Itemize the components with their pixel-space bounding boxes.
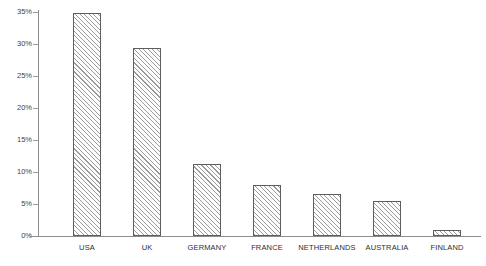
y-tick-label-10: 10% (0, 168, 32, 176)
bar-usa (73, 13, 101, 236)
bar-netherlands (313, 194, 341, 236)
bar-uk (133, 48, 161, 236)
y-tick-label-35: 35% (0, 8, 32, 16)
bar-chart: 35% 30% 25% 20% 15% 10% 5% 0% USAUKGERMA… (0, 0, 486, 266)
y-axis-line (38, 10, 39, 237)
y-tick-label-15: 15% (0, 136, 32, 144)
bar-finland (433, 230, 461, 236)
bar-germany (193, 164, 221, 236)
x-axis-line (30, 236, 481, 237)
bar-australia (373, 201, 401, 236)
x-label-finland: FINLAND (402, 243, 486, 252)
y-tick-label-5: 5% (0, 200, 32, 208)
y-tick-label-0: 0% (0, 232, 32, 240)
y-tick-label-20: 20% (0, 104, 32, 112)
y-tick-label-30: 30% (0, 40, 32, 48)
y-tick-label-25: 25% (0, 72, 32, 80)
bar-france (253, 185, 281, 236)
